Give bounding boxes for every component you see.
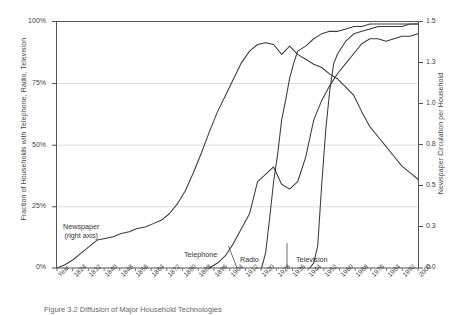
- left-tick-label-25: 25%: [14, 202, 46, 209]
- series-label-television: Television: [296, 255, 328, 264]
- right-tick-label-0-3: 0.3: [426, 222, 458, 229]
- series-label-newspaper-sub: (right axis): [63, 231, 99, 240]
- right-tick-label-0-8: 0.8: [426, 140, 458, 147]
- left-axis-ticks: [52, 22, 57, 269]
- left-tick-label-0: 0%: [14, 263, 46, 270]
- left-tick-label-75: 75%: [14, 79, 46, 86]
- figure-container: Fraction of Households with Telephone, R…: [0, 0, 463, 315]
- right-tick-label-0-5: 0.5: [426, 181, 458, 188]
- series-line-radio: [262, 24, 418, 268]
- series-label-radio: Radio: [240, 255, 259, 264]
- right-tick-label-1-3: 1.3: [426, 58, 458, 65]
- series-label-newspaper: Newspaper (right axis): [63, 222, 99, 240]
- right-axis-title: Newspaper Circulation per Household: [437, 49, 444, 219]
- left-tick-label-100: 100%: [14, 17, 46, 24]
- gridlines: [57, 84, 418, 207]
- series-label-telephone: Telephone: [184, 250, 217, 259]
- left-tick-label-50: 50%: [14, 141, 46, 148]
- left-axis-title: Fraction of Households with Telephone, R…: [20, 51, 27, 221]
- right-tick-label-1-5: 1.5: [426, 17, 458, 24]
- series-label-newspaper-main: Newspaper: [63, 222, 99, 231]
- series-line-telephone: [209, 34, 418, 268]
- series-line-newspaper: [57, 43, 418, 268]
- right-axis-ticks: [419, 22, 424, 269]
- right-tick-label-1-0: 1.0: [426, 99, 458, 106]
- series-lines: [57, 24, 418, 268]
- figure-caption: Figure 3.2 Diffusion of Major Household …: [44, 305, 222, 315]
- series-line-television: [310, 24, 418, 268]
